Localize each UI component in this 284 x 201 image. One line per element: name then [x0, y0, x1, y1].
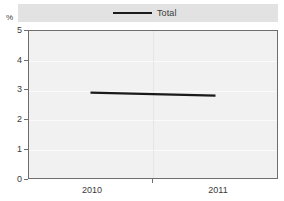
x-tick-label-2011: 2011 — [196, 186, 240, 195]
line-chart: Total % 5 4 3 2 1 0 2010 2011 — [0, 0, 284, 201]
y-tick-label-2: 2 — [2, 115, 22, 124]
y-tick-label-5: 5 — [2, 26, 22, 35]
y-tick-0 — [24, 179, 28, 180]
chart-legend: Total — [18, 4, 278, 22]
y-tick-label-1: 1 — [2, 145, 22, 154]
x-tick-mid — [152, 179, 153, 183]
series-line-total — [91, 93, 216, 96]
y-axis-unit-label: % — [6, 14, 13, 22]
y-tick-label-0: 0 — [2, 175, 22, 184]
legend-line-swatch-total — [113, 12, 152, 14]
series-layer — [28, 30, 278, 179]
legend-item-total[interactable]: Total — [113, 4, 177, 22]
x-tick-label-2010: 2010 — [70, 186, 114, 195]
y-tick-label-3: 3 — [2, 85, 22, 94]
legend-label-total: Total — [157, 9, 177, 18]
y-tick-label-4: 4 — [2, 56, 22, 65]
